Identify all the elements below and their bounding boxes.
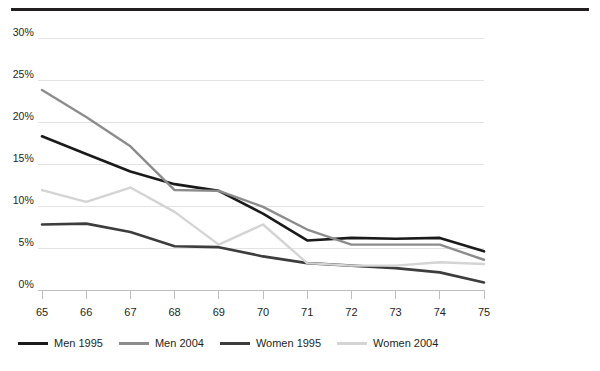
legend-label: Women 2004 (373, 338, 438, 349)
legend-label: Men 2004 (155, 338, 204, 349)
x-tick-label: 73 (381, 307, 411, 318)
y-tick-label: 20% (0, 111, 34, 122)
y-tick-label: 30% (0, 27, 34, 38)
series-line-women-1995 (42, 224, 484, 283)
x-tick-label: 72 (336, 307, 366, 318)
legend-item-men-1995[interactable]: Men 1995 (18, 338, 103, 349)
line-chart: 0%5%10%15%20%25%30% 65666768697071727374… (0, 0, 600, 371)
x-tick-label: 71 (292, 307, 322, 318)
x-tick-label: 68 (160, 307, 190, 318)
x-tick-label: 66 (71, 307, 101, 318)
x-tick-label: 69 (204, 307, 234, 318)
x-tick-marks (42, 290, 484, 299)
legend-swatch-icon (119, 342, 149, 345)
y-tick-label: 15% (0, 153, 34, 164)
x-tick-label: 74 (425, 307, 455, 318)
legend-swatch-icon (220, 342, 250, 345)
y-tick-label: 25% (0, 69, 34, 80)
x-tick-label: 75 (469, 307, 499, 318)
legend-item-women-2004[interactable]: Women 2004 (337, 338, 438, 349)
legend-item-men-2004[interactable]: Men 2004 (119, 338, 204, 349)
chart-legend: Men 1995Men 2004Women 1995Women 2004 (18, 338, 438, 349)
data-series-lines (42, 90, 484, 282)
gridlines (38, 38, 484, 290)
legend-swatch-icon (18, 342, 48, 345)
legend-item-women-1995[interactable]: Women 1995 (220, 338, 321, 349)
y-tick-label: 0% (0, 279, 34, 290)
x-tick-label: 65 (27, 307, 57, 318)
y-tick-label: 5% (0, 237, 34, 248)
x-tick-label: 67 (115, 307, 145, 318)
legend-swatch-icon (337, 342, 367, 345)
legend-label: Men 1995 (54, 338, 103, 349)
y-tick-label: 10% (0, 195, 34, 206)
legend-label: Women 1995 (256, 338, 321, 349)
series-line-men-2004 (42, 90, 484, 260)
x-tick-label: 70 (248, 307, 278, 318)
